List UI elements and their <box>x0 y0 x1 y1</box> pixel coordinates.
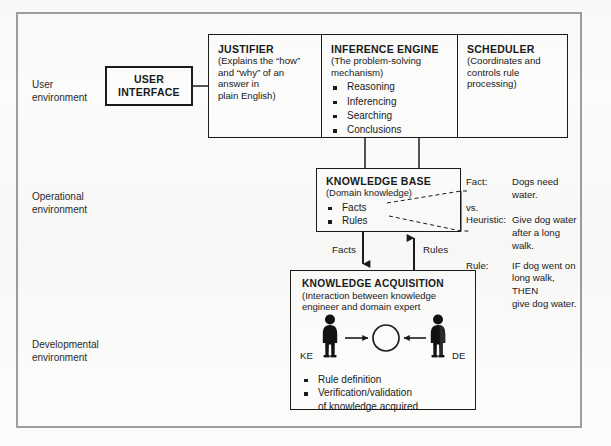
actor-label-ke: KE <box>300 350 313 361</box>
annotation-key: Fact: <box>466 176 512 189</box>
annotation-value: Give dog water after a long walk. <box>512 214 582 252</box>
diagram-canvas: User environment Operational environment… <box>0 0 611 446</box>
annotation-spacer <box>466 253 586 260</box>
knowledge-node-circle <box>373 325 399 351</box>
actor-illustration: KE DE <box>300 312 468 364</box>
annotation-panel: Fact:Dogs need water. vs. Heuristic:Give… <box>466 176 586 311</box>
list-item: Inferencing <box>331 95 450 109</box>
knowledge-base-bullets: Facts Rules <box>326 201 454 228</box>
annotation-value: IF dog went on long walk, THEN give dog … <box>512 260 582 311</box>
annotation-key: Heuristic: <box>466 214 512 227</box>
domain-expert-figure <box>431 315 445 358</box>
box-inference-engine[interactable]: INFERENCE ENGINE (The problem-solving me… <box>321 35 457 137</box>
scheduler-title: SCHEDULER <box>467 43 562 55</box>
annotation-value: Dogs need water. <box>512 176 582 202</box>
box-knowledge-base[interactable]: KNOWLEDGE BASE (Domain knowledge) Facts … <box>316 168 461 232</box>
inference-engine-subtitle: (The problem-solving mechanism) <box>331 55 450 78</box>
knowledge-base-subtitle: (Domain knowledge) <box>326 187 454 198</box>
user-interface-title: USER INTERFACE <box>118 73 180 99</box>
list-item: Conclusions <box>331 123 450 137</box>
list-item: Rules <box>326 214 454 228</box>
env-label-developmental: Developmental environment <box>32 338 99 364</box>
scheduler-subtitle: (Coordinates and controls rule processin… <box>467 55 562 90</box>
box-justifier[interactable]: JUSTIFIER (Explains the “how” and “why” … <box>209 35 321 137</box>
justifier-subtitle: (Explains the “how” and “why” of an answ… <box>218 55 314 102</box>
annotation-key: vs. <box>466 202 512 215</box>
knowledge-acquisition-subtitle: (Interaction between knowledge engineer … <box>302 290 469 313</box>
knowledge-base-title: KNOWLEDGE BASE <box>326 175 454 187</box>
box-user-interface[interactable]: USER INTERFACE <box>105 66 193 106</box>
justifier-title: JUSTIFIER <box>218 43 314 55</box>
actor-illustration-svg <box>300 312 468 364</box>
env-label-operational: Operational environment <box>32 190 87 216</box>
list-item: Rule definition <box>302 373 469 387</box>
actor-label-de: DE <box>452 350 465 361</box>
annotation-row-rule: Rule:IF dog went on long walk, THEN give… <box>466 260 586 311</box>
list-item: Searching <box>331 109 450 123</box>
list-item: Verification/validation of knowledge acq… <box>302 386 469 413</box>
flow-label-facts: Facts <box>332 244 356 255</box>
knowledge-acquisition-title: KNOWLEDGE ACQUISITION <box>302 278 469 290</box>
knowledge-acquisition-bullets: Rule definition Verification/validation … <box>302 373 469 414</box>
inference-engine-bullets: Reasoning Inferencing Searching Conclusi… <box>331 80 450 137</box>
knowledge-engineer-figure <box>323 315 337 358</box>
box-top-row-group: JUSTIFIER (Explains the “how” and “why” … <box>208 34 568 138</box>
box-scheduler[interactable]: SCHEDULER (Coordinates and controls rule… <box>457 35 569 137</box>
list-item: Facts <box>326 201 454 215</box>
flow-label-rules: Rules <box>423 244 448 255</box>
annotation-row-heuristic: Heuristic:Give dog water after a long wa… <box>466 214 586 252</box>
inference-engine-title: INFERENCE ENGINE <box>331 43 450 55</box>
list-item: Reasoning <box>331 80 450 94</box>
env-label-user: User environment <box>32 78 87 104</box>
annotation-row-fact: Fact:Dogs need water. <box>466 176 586 202</box>
annotation-row-vs: vs. <box>466 202 586 215</box>
